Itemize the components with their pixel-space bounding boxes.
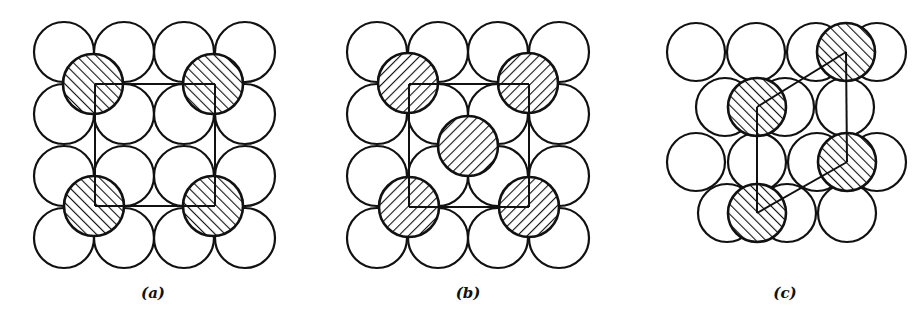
shaded-atom-circle xyxy=(438,116,498,176)
atom-circle xyxy=(816,78,874,136)
panel-b-label: (b) xyxy=(456,284,481,302)
unit-cell-edge xyxy=(757,52,846,107)
atom-circle xyxy=(727,23,785,81)
panel-a-square-lattice xyxy=(34,22,275,268)
atom-circle xyxy=(667,133,725,191)
atom-circle xyxy=(818,184,876,242)
unit-cell-edge xyxy=(846,52,847,162)
crystal-packing-diagram xyxy=(0,0,919,324)
panel-b-centered-lattice xyxy=(347,22,589,268)
panel-c-hexagonal-lattice xyxy=(667,23,906,242)
panel-c-label: (c) xyxy=(773,284,796,302)
atom-circle xyxy=(667,23,725,81)
panel-a-label: (a) xyxy=(141,284,165,302)
